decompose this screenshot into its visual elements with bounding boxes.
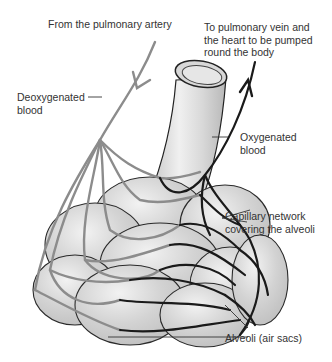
label-pulmonary-vein: To pulmonary vein and the heart to be pu…: [204, 21, 313, 59]
label-alveoli: Alveoli (air sacs): [225, 332, 302, 345]
label-pulmonary-artery-text: From the pulmonary artery: [48, 18, 172, 30]
label-oxygenated-line2: blood: [240, 144, 297, 157]
label-deoxygenated-line1: Deoxygenated: [17, 91, 85, 104]
label-oxygenated-blood: Oxygenated blood: [240, 131, 297, 156]
label-alveoli-text: Alveoli (air sacs): [225, 332, 302, 344]
label-capillary-line1: Capillary network: [225, 210, 315, 223]
label-capillary-line2: covering the alveoli: [225, 223, 315, 236]
label-pulmonary-vein-line1: To pulmonary vein and: [204, 21, 313, 34]
label-pulmonary-vein-line2: the heart to be pumped: [204, 34, 313, 47]
label-oxygenated-line1: Oxygenated: [240, 131, 297, 144]
label-pulmonary-vein-line3: round the body: [204, 46, 313, 59]
label-pulmonary-artery: From the pulmonary artery: [48, 18, 172, 31]
label-capillary-network: Capillary network covering the alveoli: [225, 210, 315, 235]
alveoli-diagram: From the pulmonary artery To pulmonary v…: [0, 0, 332, 362]
arrow-deoxygenated-inflow: [133, 72, 150, 88]
label-deoxygenated-blood: Deoxygenated blood: [17, 91, 85, 116]
label-deoxygenated-line2: blood: [17, 104, 85, 117]
